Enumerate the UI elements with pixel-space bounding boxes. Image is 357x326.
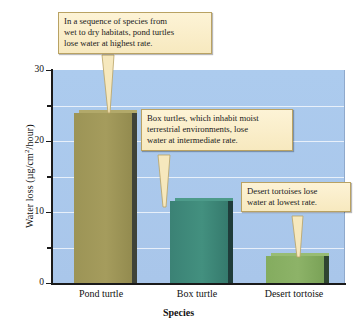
- y-tick-label-0: 0: [18, 277, 44, 287]
- callout-box-turtle-tail: [150, 155, 184, 210]
- callout-pond-turtle-line3: lose water at highest rate.: [64, 38, 206, 49]
- y-axis-title-main: Water loss (µg/cm: [24, 153, 35, 228]
- callout-pond-turtle-line2: wet to dry habitats, pond turtles: [64, 27, 206, 38]
- callout-pond-turtle: In a sequence of species from wet to dry…: [58, 12, 212, 54]
- figure-container: 30 20 10 0 Water loss (µg/cm2/hour) Pond…: [0, 0, 357, 326]
- callout-box-turtle: Box turtles, which inhabit moist terrest…: [141, 109, 293, 151]
- callout-desert-tortoise: Desert tortoises lose water at lowest ra…: [241, 182, 351, 212]
- y-axis-title-tail: /hour): [24, 124, 35, 149]
- callout-box-turtle-line1: Box turtles, which inhabit moist: [147, 113, 287, 124]
- x-axis-title: Species: [0, 307, 357, 318]
- callout-pond-turtle-line1: In a sequence of species from: [64, 16, 206, 27]
- callout-pond-turtle-tail: [100, 55, 126, 115]
- x-tick-label-desert-tortoise: Desert tortoise: [236, 288, 352, 299]
- y-tick-label-30: 30: [18, 64, 44, 74]
- callout-desert-tortoise-line2: water at lowest rate.: [247, 197, 345, 208]
- callout-box-turtle-line2: terrestrial environments, lose: [147, 124, 287, 135]
- callout-desert-tortoise-tail: [286, 216, 318, 260]
- callout-box-turtle-line3: water at intermediate rate.: [147, 135, 287, 146]
- x-tick-label-pond-turtle: Pond turtle: [46, 288, 156, 299]
- y-axis-title: Water loss (µg/cm2/hour): [23, 81, 35, 271]
- callout-desert-tortoise-line1: Desert tortoises lose: [247, 186, 345, 197]
- y-axis-title-exponent: 2: [23, 149, 31, 153]
